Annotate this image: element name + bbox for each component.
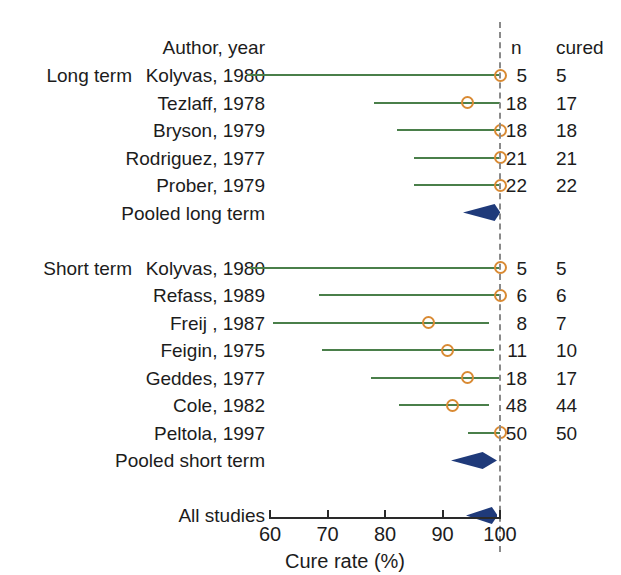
study-cured-value: 44 xyxy=(556,396,577,415)
confidence-interval-line xyxy=(399,404,488,406)
reference-line-100 xyxy=(499,22,501,552)
confidence-interval-line xyxy=(247,74,500,76)
confidence-interval-line xyxy=(319,294,500,296)
study-label: Prober, 1979 xyxy=(0,176,265,195)
study-cured-value: 17 xyxy=(556,94,577,113)
study-label: Kolyvas, 1980 xyxy=(0,259,265,278)
study-label: Tezlaff, 1978 xyxy=(0,94,265,113)
x-axis-tick xyxy=(442,510,444,519)
study-label: Cole, 1982 xyxy=(0,396,265,415)
point-estimate-marker xyxy=(461,96,474,109)
study-cured-value: 17 xyxy=(556,369,577,388)
x-axis-tick-label: 100 xyxy=(470,524,530,544)
pooled-label: Pooled long term xyxy=(0,204,265,223)
study-cured-value: 5 xyxy=(556,66,567,85)
column-header-n: n xyxy=(511,38,522,57)
point-estimate-marker xyxy=(461,371,474,384)
point-estimate-marker xyxy=(422,316,435,329)
column-header-author: Author, year xyxy=(0,38,265,57)
study-cured-value: 10 xyxy=(556,341,577,360)
study-label: Feigin, 1975 xyxy=(0,341,265,360)
pooled-estimate-diamond xyxy=(463,204,500,221)
study-cured-value: 50 xyxy=(556,424,577,443)
confidence-interval-line xyxy=(414,157,500,159)
study-label: Bryson, 1979 xyxy=(0,121,265,140)
study-cured-value: 7 xyxy=(556,314,567,333)
study-label: Rodriguez, 1977 xyxy=(0,149,265,168)
confidence-interval-line xyxy=(371,377,500,379)
overall-label: All studies xyxy=(0,506,265,525)
x-axis-tick xyxy=(384,510,386,519)
study-cured-value: 18 xyxy=(556,121,577,140)
study-label: Kolyvas, 1980 xyxy=(0,66,265,85)
confidence-interval-line xyxy=(397,129,501,131)
x-axis-tick-label: 80 xyxy=(355,524,415,544)
study-label: Peltola, 1997 xyxy=(0,424,265,443)
x-axis-tick xyxy=(327,510,329,519)
study-label: Freij , 1987 xyxy=(0,314,265,333)
x-axis-title: Cure rate (%) xyxy=(285,551,405,571)
x-axis-tick xyxy=(499,510,501,519)
pooled-estimate-diamond xyxy=(451,452,497,469)
x-axis-tick-label: 60 xyxy=(240,524,300,544)
study-label: Refass, 1989 xyxy=(0,286,265,305)
pooled-label: Pooled short term xyxy=(0,451,265,470)
column-header-cured: cured xyxy=(556,38,604,57)
forest-plot: Author, year n cured Long termKolyvas, 1… xyxy=(0,0,621,575)
confidence-interval-line xyxy=(322,349,495,351)
x-axis-tick xyxy=(269,510,271,519)
confidence-interval-line xyxy=(273,322,489,324)
point-estimate-marker xyxy=(446,399,459,412)
study-cured-value: 5 xyxy=(556,259,567,278)
point-estimate-marker xyxy=(441,344,454,357)
confidence-interval-line xyxy=(250,267,500,269)
x-axis-tick-label: 70 xyxy=(298,524,358,544)
study-cured-value: 21 xyxy=(556,149,577,168)
study-label: Geddes, 1977 xyxy=(0,369,265,388)
x-axis-tick-label: 90 xyxy=(413,524,473,544)
study-cured-value: 6 xyxy=(556,286,567,305)
confidence-interval-line xyxy=(374,102,501,104)
pooled-estimate-diamond xyxy=(466,507,498,524)
study-cured-value: 22 xyxy=(556,176,577,195)
confidence-interval-line xyxy=(414,184,500,186)
